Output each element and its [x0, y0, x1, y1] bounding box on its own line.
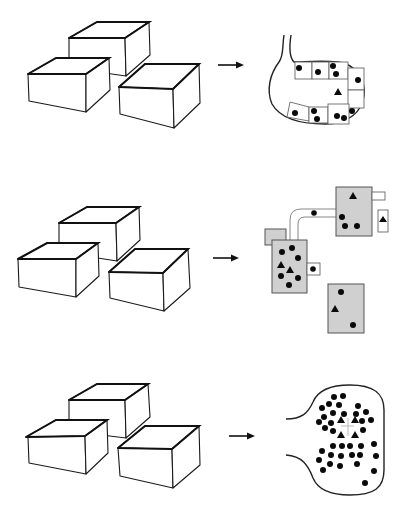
- dot: [311, 210, 317, 216]
- row-2-boxes: [18, 207, 190, 311]
- box-right: [119, 64, 200, 128]
- dot: [355, 77, 361, 83]
- triangle: [334, 88, 342, 95]
- dot: [315, 69, 321, 75]
- row-2-cells: [265, 187, 388, 333]
- dot: [292, 110, 298, 116]
- row-1-boxes: [28, 22, 200, 128]
- box-left: [26, 420, 108, 474]
- dot: [330, 63, 336, 69]
- row-3-boxes: [26, 384, 200, 488]
- dot: [334, 113, 340, 119]
- figure-canvas: [0, 0, 408, 510]
- arrow-row-3: [229, 433, 255, 440]
- dot: [314, 116, 320, 122]
- dot: [311, 108, 317, 114]
- box-right: [109, 249, 190, 311]
- box-right: [118, 426, 200, 488]
- box-left: [18, 243, 99, 297]
- dot: [349, 108, 355, 114]
- box-left: [28, 58, 110, 112]
- dot: [341, 115, 347, 121]
- arrow-row-2: [213, 255, 239, 262]
- dot: [333, 71, 339, 77]
- row-1-pouch: [269, 35, 364, 124]
- arrow-row-1: [218, 62, 244, 69]
- row-3-pouch: [286, 385, 384, 495]
- dot: [296, 65, 302, 71]
